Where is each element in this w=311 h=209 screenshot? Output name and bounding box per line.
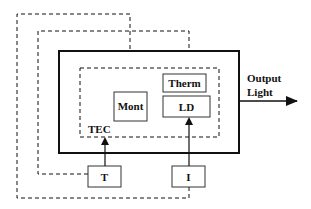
ld-block: LD	[163, 96, 210, 117]
therm-label: Therm	[168, 77, 200, 89]
mont-block: Mont	[114, 92, 147, 121]
i-label: I	[186, 171, 190, 183]
t-label: T	[101, 171, 109, 183]
module-box	[59, 51, 239, 153]
i-block: I	[172, 166, 205, 187]
diagram-canvas: Therm LD Mont TEC T I Output Light	[0, 0, 311, 209]
output-label-line1: Output	[247, 72, 282, 84]
ld-label: LD	[179, 101, 194, 113]
output-label-line2: Light	[247, 86, 273, 98]
t-block: T	[88, 166, 121, 187]
mont-label: Mont	[118, 100, 144, 112]
therm-block: Therm	[163, 74, 206, 92]
tec-label: TEC	[88, 123, 111, 135]
